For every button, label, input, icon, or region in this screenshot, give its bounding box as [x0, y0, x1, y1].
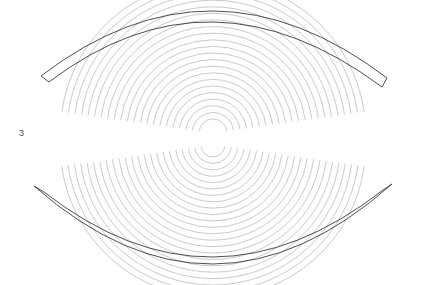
wavefront-arc: [127, 46, 299, 121]
concave-mirror-outline: [34, 184, 392, 264]
wavefront-arc: [112, 159, 313, 246]
figure-panel-3: 3: [0, 0, 421, 145]
panel-3-graphic: [0, 0, 421, 145]
panel-4-graphic: [0, 145, 421, 285]
wavefront-arc: [138, 156, 289, 221]
wavefront-arc: [193, 112, 234, 130]
wavefront-arc: [134, 53, 292, 122]
wavefront-arc: [119, 158, 308, 240]
wavefront-arc: [186, 106, 240, 129]
wavefront-arc: [173, 93, 253, 128]
figure-sheet: 3 4: [0, 0, 421, 285]
wavefront-arc: [195, 148, 231, 164]
wavefront-arc: [166, 86, 259, 126]
wavefront-arc: [106, 160, 320, 253]
wavefront-arc: [62, 166, 365, 285]
wavefront-arc: [62, 0, 364, 112]
panel-3-label: 3: [19, 128, 24, 138]
wavefront-arc: [121, 40, 306, 120]
wavefront-arc: [131, 156, 294, 227]
wavefront-arc: [75, 0, 351, 114]
wavefront-arc-group-3: [62, 0, 364, 131]
wavefront-arc: [108, 27, 319, 119]
wavefront-arc: [68, 0, 357, 113]
wavefront-arc: [199, 119, 227, 131]
wavefront-arc: [81, 0, 344, 114]
wavefront-arc: [140, 60, 285, 123]
wavefront-arc: [201, 147, 225, 157]
figure-panel-4: 4: [0, 145, 421, 285]
concave-mirror-band-4: [34, 184, 392, 264]
wavefront-arc: [182, 149, 244, 176]
wavefront-arc: [180, 99, 247, 128]
wavefront-arc: [176, 150, 250, 182]
